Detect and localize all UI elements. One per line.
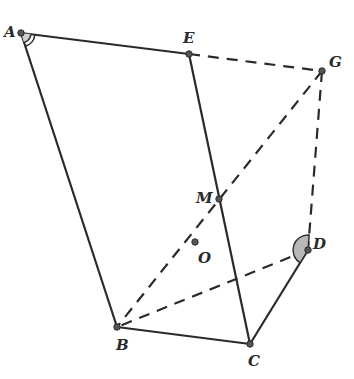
- segment-AE: [21, 33, 189, 54]
- point-a: [18, 30, 24, 36]
- points: [18, 30, 325, 347]
- label-c: C: [248, 352, 260, 370]
- label-e: E: [182, 29, 195, 47]
- label-g: G: [329, 53, 342, 71]
- dashed-segment-EG: [189, 54, 322, 71]
- segment-BC: [117, 327, 250, 344]
- point-b: [114, 324, 120, 330]
- label-b: B: [115, 336, 129, 354]
- label-d: D: [312, 235, 326, 253]
- segment-AB: [21, 33, 117, 327]
- point-c: [247, 341, 253, 347]
- segments: [21, 33, 322, 344]
- label-m: M: [195, 189, 213, 207]
- label-o: O: [198, 249, 211, 267]
- point-m: [216, 196, 222, 202]
- point-labels: AEGMODBC: [2, 23, 342, 370]
- point-d: [305, 247, 311, 253]
- angle-marks: [21, 33, 309, 263]
- label-a: A: [2, 23, 16, 41]
- point-g: [319, 68, 325, 74]
- dashed-segment-DB: [117, 250, 308, 327]
- segment-CD: [250, 250, 308, 344]
- point-e: [186, 51, 192, 57]
- diagram-canvas: AEGMODBC: [0, 0, 354, 379]
- point-o: [192, 239, 198, 245]
- dashed-segment-GD: [308, 71, 322, 250]
- geometry-diagram: AEGMODBC: [0, 0, 354, 379]
